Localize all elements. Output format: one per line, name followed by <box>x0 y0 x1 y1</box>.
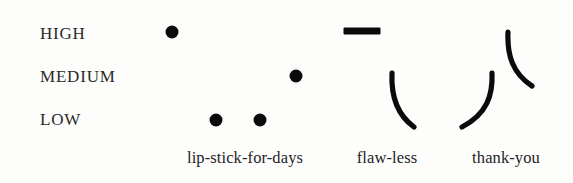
data-point-dot <box>166 26 179 39</box>
y-axis-label-high: HIGH <box>40 25 86 42</box>
chart-figure: HIGH MEDIUM LOW lip-stick-for-days flaw-… <box>0 0 573 183</box>
x-axis-label-thank-you: thank-you <box>472 150 540 167</box>
data-point-dot <box>210 114 223 127</box>
data-point-dash <box>344 28 381 35</box>
data-point-dot <box>290 70 303 83</box>
y-axis-label-medium: MEDIUM <box>40 68 116 85</box>
data-point-dot <box>254 114 267 127</box>
x-axis-label-flaw-less: flaw-less <box>357 150 417 167</box>
y-axis-label-low: LOW <box>40 111 81 128</box>
x-axis-label-lip-stick-for-days: lip-stick-for-days <box>187 150 303 167</box>
